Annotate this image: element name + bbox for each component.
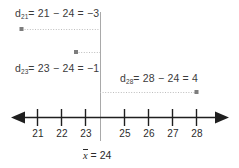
- tick-label-26: 26: [138, 128, 160, 139]
- tick-label-25: 25: [114, 128, 136, 139]
- tick-label-21: 21: [27, 128, 49, 139]
- mean-symbol: x: [83, 149, 88, 161]
- tick-label-23: 23: [75, 128, 97, 139]
- deviation-number-line-figure: d21= 21 − 24 = −3 d23= 23 − 24 = −1 d28=…: [0, 0, 239, 168]
- right-arrow-icon: [215, 112, 229, 124]
- deviation-label-d21: d21= 21 − 24 = −3: [15, 7, 99, 20]
- data-point-23: [74, 50, 78, 54]
- mean-value: = 24: [91, 149, 112, 161]
- deviation-label-d23: d23= 23 − 24 = −1: [15, 62, 99, 75]
- deviation-expression-d23: = 23 − 24 = −1: [28, 62, 99, 74]
- left-arrow-icon: [11, 112, 25, 124]
- tick-label-28: 28: [186, 128, 208, 139]
- data-point-28: [195, 90, 199, 94]
- deviation-label-d28: d28= 28 − 24 = 4: [120, 72, 198, 85]
- deviation-expression-d28: = 28 − 24 = 4: [133, 72, 198, 84]
- tick-label-22: 22: [51, 128, 73, 139]
- mean-caption: x = 24: [83, 149, 111, 161]
- data-point-21: [20, 27, 24, 31]
- deviation-expression-d21: = 21 − 24 = −3: [28, 7, 99, 19]
- tick-label-27: 27: [162, 128, 184, 139]
